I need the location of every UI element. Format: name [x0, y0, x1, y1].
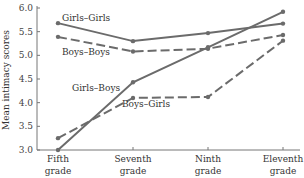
- y-axis: 3.03.54.04.55.05.56.0: [19, 3, 40, 155]
- x-category-label: Ninth: [195, 154, 221, 164]
- y-tick-label: 6.0: [19, 3, 34, 13]
- y-tick-label: 3.0: [19, 145, 34, 155]
- data-point: [131, 80, 135, 84]
- data-point: [56, 35, 60, 39]
- y-tick-label: 4.5: [19, 74, 34, 84]
- series-label: Girls–Girls: [62, 13, 111, 23]
- series-line: [58, 12, 283, 150]
- data-point: [206, 31, 210, 35]
- data-point: [281, 21, 285, 25]
- data-point: [56, 148, 60, 152]
- y-axis-title: Mean intimacy scores: [1, 30, 11, 130]
- data-point: [206, 45, 210, 49]
- series-layer: [56, 10, 285, 153]
- data-point: [131, 39, 135, 43]
- x-axis: FifthgradeSeventhgradeNinthgradeEleventh…: [37, 147, 303, 176]
- data-point: [56, 136, 60, 140]
- x-category-label: grade: [195, 166, 222, 176]
- y-tick-label: 3.5: [19, 121, 34, 131]
- series-label: Girls–Boys: [72, 83, 120, 93]
- y-tick-label: 5.0: [19, 50, 34, 60]
- y-tick-label: 5.5: [19, 27, 34, 37]
- y-tick-label: 4.0: [19, 98, 34, 108]
- series-label: Boys–Girls: [122, 99, 170, 109]
- x-category-label: Fifth: [47, 154, 69, 164]
- data-point: [281, 10, 285, 14]
- series-line: [58, 23, 283, 41]
- data-point: [281, 38, 285, 42]
- data-point: [206, 95, 210, 99]
- x-category-label: Seventh: [114, 154, 151, 164]
- line-chart: 3.03.54.04.55.05.56.0 FifthgradeSeventhg…: [0, 0, 304, 178]
- series-label: Boys–Boys: [62, 47, 110, 57]
- x-category-label: grade: [120, 166, 147, 176]
- x-category-label: grade: [270, 166, 297, 176]
- x-category-label: grade: [45, 166, 72, 176]
- data-point: [131, 49, 135, 53]
- data-point: [281, 33, 285, 37]
- x-category-label: Eleventh: [263, 154, 304, 164]
- data-point: [56, 21, 60, 25]
